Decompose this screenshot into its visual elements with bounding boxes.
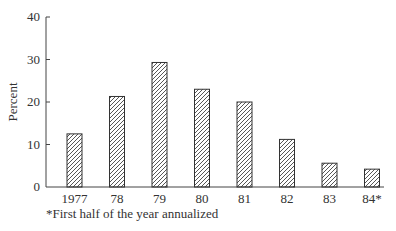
y-tick-label: 30 bbox=[27, 52, 40, 67]
y-axis-title: Percent bbox=[5, 82, 20, 121]
bar bbox=[195, 89, 210, 187]
bars bbox=[67, 62, 380, 187]
bar bbox=[237, 102, 252, 187]
bar bbox=[322, 163, 337, 187]
x-tick-label: 79 bbox=[153, 191, 166, 206]
bar bbox=[152, 62, 167, 187]
bar bbox=[280, 139, 295, 187]
y-tick-label: 40 bbox=[27, 9, 40, 24]
bar bbox=[110, 96, 125, 187]
bar bbox=[67, 134, 82, 187]
x-tick-label: 82 bbox=[281, 191, 294, 206]
bar-chart: 010203040 197778798081828384* Percent bbox=[0, 0, 396, 231]
x-tick-label: 83 bbox=[323, 191, 336, 206]
y-axis: 010203040 bbox=[27, 9, 50, 194]
bar bbox=[365, 169, 380, 187]
y-tick-label: 0 bbox=[34, 179, 41, 194]
y-tick-label: 10 bbox=[27, 137, 40, 152]
footnote: *First half of the year annualized bbox=[46, 206, 218, 222]
y-tick-label: 20 bbox=[27, 94, 40, 109]
x-tick-label: 84* bbox=[362, 191, 382, 206]
x-tick-label: 81 bbox=[238, 191, 251, 206]
x-tick-label: 78 bbox=[111, 191, 124, 206]
x-axis: 197778798081828384* bbox=[46, 187, 384, 206]
x-tick-label: 80 bbox=[196, 191, 209, 206]
x-tick-label: 1977 bbox=[62, 191, 89, 206]
